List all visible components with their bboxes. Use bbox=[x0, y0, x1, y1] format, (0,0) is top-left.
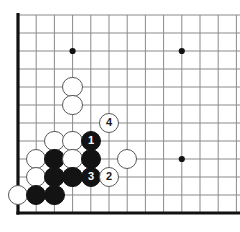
move-number-label: 3 bbox=[88, 171, 94, 182]
go-diagram: 4132 bbox=[0, 0, 240, 232]
move-number-label: 2 bbox=[106, 171, 112, 182]
black-stone bbox=[62, 167, 82, 187]
black-stone bbox=[44, 185, 64, 205]
star-point bbox=[179, 156, 185, 162]
white-stone bbox=[62, 95, 82, 115]
star-point bbox=[70, 48, 76, 54]
black-stone-move-3: 3 bbox=[81, 167, 101, 187]
move-number-label: 4 bbox=[106, 117, 112, 128]
star-point bbox=[179, 48, 185, 54]
move-number-label: 1 bbox=[88, 135, 94, 146]
